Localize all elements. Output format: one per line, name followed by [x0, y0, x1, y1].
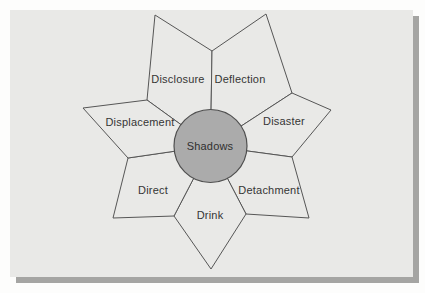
center-label: Shadows — [187, 140, 234, 152]
petal-label-direct: Direct — [138, 184, 168, 196]
petal-label-disaster: Disaster — [263, 115, 305, 127]
petal-label-deflection: Deflection — [215, 73, 266, 85]
petal-label-detachment: Detachment — [238, 184, 299, 196]
petal-label-disclosure: Disclosure — [151, 73, 204, 85]
petal-label-drink: Drink — [197, 209, 224, 221]
petal-label-displacement: Displacement — [105, 116, 174, 128]
figure-container: Disclosure Deflection Disaster Detachmen… — [0, 0, 425, 293]
